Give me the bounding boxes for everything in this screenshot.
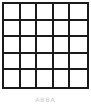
grid-cell-r1-c4 [54,4,71,21]
grid-cell-r1-c3 [37,4,54,21]
grid-cell-r3-c3 [37,37,54,54]
grid-cell-r2-c2 [21,21,38,38]
grid-cell-r2-c1 [4,21,21,38]
grid-cell-r1-c2 [21,4,38,21]
grid-cell-r3-c5 [70,37,87,54]
grid-cell-r5-c5 [70,70,87,87]
grid-cell-r5-c2 [21,70,38,87]
grid-cell-r3-c1 [4,37,21,54]
grid-cell-r4-c2 [21,54,38,71]
grid-cell-r3-c4 [54,37,71,54]
grid-cell-r1-c5 [70,4,87,21]
grid-cell-r2-c5 [70,21,87,38]
grid-cell-r4-c5 [70,54,87,71]
grid-cell-r5-c1 [4,70,21,87]
grid-cell-r4-c4 [54,54,71,71]
grid-cell-r2-c3 [37,21,54,38]
grid-cell-r3-c2 [21,37,38,54]
grid-cell-r4-c3 [37,54,54,71]
grid-diagram [2,2,89,89]
grid-cell-r2-c4 [54,21,71,38]
grid-cell-r5-c4 [54,70,71,87]
grid-cell-r4-c1 [4,54,21,71]
grid-cell-r5-c3 [37,70,54,87]
grid-cell-r1-c1 [4,4,21,21]
grid-caption: ABBA [0,96,91,104]
